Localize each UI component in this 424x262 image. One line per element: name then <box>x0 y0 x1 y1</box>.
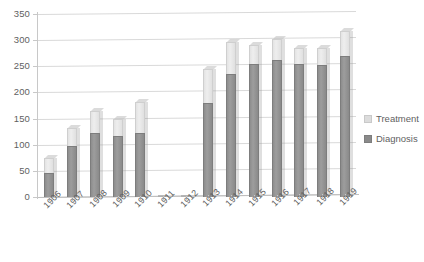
bar-segment-diagnosis-1915[interactable] <box>249 64 259 197</box>
bar-stack-1910 <box>135 102 145 197</box>
y-axis-label-300: 300 <box>0 35 30 45</box>
bar-side-face <box>350 31 353 197</box>
bar-segment-diagnosis-1919[interactable] <box>340 56 350 197</box>
bar-segment-treatment-1917[interactable] <box>294 48 304 64</box>
y-axis-label-150: 150 <box>0 114 30 124</box>
bar-stack-1919 <box>340 31 350 197</box>
bar-segment-treatment-1907[interactable] <box>67 128 77 146</box>
y-axis-label-250: 250 <box>0 61 30 71</box>
bar-side-face <box>259 45 262 197</box>
bar-side-face <box>77 128 80 197</box>
bar-segment-treatment-1918[interactable] <box>317 48 327 65</box>
plot-area <box>38 14 356 197</box>
bar-stack-1909 <box>113 119 123 197</box>
bar-segment-diagnosis-1918[interactable] <box>317 65 327 197</box>
bar-segment-treatment-1915[interactable] <box>249 45 259 63</box>
bar-stack-1917 <box>294 48 304 197</box>
bar-segment-diagnosis-1914[interactable] <box>226 74 236 197</box>
legend-label: Diagnosis <box>376 134 418 143</box>
bar-top-face <box>341 28 354 31</box>
y-axis-label-350: 350 <box>0 9 30 19</box>
bar-side-face <box>327 48 330 197</box>
y-axis-label-100: 100 <box>0 140 30 150</box>
bar-segment-treatment-1919[interactable] <box>340 31 350 56</box>
bar-side-face <box>236 42 239 197</box>
bar-segment-treatment-1916[interactable] <box>272 39 282 60</box>
bar-top-face <box>114 116 127 119</box>
bar-stack-1915 <box>249 45 259 197</box>
bar-side-face <box>213 69 216 197</box>
y-axis-label-50: 50 <box>0 166 30 176</box>
stacked-bar-chart: 050100150200250300350 190619071908190919… <box>0 0 424 262</box>
legend-item-treatment[interactable]: Treatment <box>364 114 419 123</box>
y-axis-label-200: 200 <box>0 87 30 97</box>
bar-segment-treatment-1908[interactable] <box>90 111 100 133</box>
bar-side-face <box>100 111 103 197</box>
legend-label: Treatment <box>376 114 419 123</box>
bar-segment-diagnosis-1917[interactable] <box>294 64 304 197</box>
bar-side-face <box>282 39 285 197</box>
bar-side-face <box>304 48 307 197</box>
bar-segment-diagnosis-1909[interactable] <box>113 136 123 197</box>
chart-legend: TreatmentDiagnosis <box>364 114 419 154</box>
bar-stack-1908 <box>90 111 100 197</box>
legend-item-diagnosis[interactable]: Diagnosis <box>364 134 419 143</box>
bar-segment-treatment-1913[interactable] <box>203 69 213 103</box>
bar-segment-treatment-1914[interactable] <box>226 42 236 74</box>
bar-stack-1916 <box>272 39 282 197</box>
bar-stack-1907 <box>67 128 77 197</box>
bar-segment-diagnosis-1916[interactable] <box>272 60 282 197</box>
bar-segment-treatment-1906[interactable] <box>44 158 54 174</box>
bar-stack-1914 <box>226 42 236 197</box>
bar-segment-treatment-1910[interactable] <box>135 102 145 132</box>
legend-swatch-icon-treatment <box>364 115 372 123</box>
bar-segment-diagnosis-1910[interactable] <box>135 133 145 197</box>
bar-segment-diagnosis-1913[interactable] <box>203 103 213 197</box>
bar-segment-treatment-1909[interactable] <box>113 119 123 136</box>
bar-side-face <box>145 102 148 197</box>
bar-stack-1913 <box>203 69 213 197</box>
legend-swatch-icon-diagnosis <box>364 135 372 143</box>
bar-side-face <box>123 119 126 197</box>
bar-stack-1918 <box>317 48 327 197</box>
bar-segment-diagnosis-1908[interactable] <box>90 133 100 197</box>
y-axis-label-0: 0 <box>0 192 30 202</box>
bar-segment-diagnosis-1907[interactable] <box>67 146 77 197</box>
